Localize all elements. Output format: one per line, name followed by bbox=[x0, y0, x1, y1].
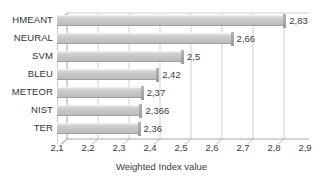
bar-chart: HMEANT NEURAL SVM BLEU METEOR NIST TER 2… bbox=[0, 0, 323, 183]
x-tick-label: 2,6 bbox=[205, 142, 218, 153]
category-label: NEURAL bbox=[0, 29, 55, 47]
bar-end-cap bbox=[181, 50, 184, 64]
bar bbox=[57, 105, 139, 116]
x-tick-label: 2,9 bbox=[298, 142, 311, 153]
bar-series: 2,832,662,52,422,372,3662,36 bbox=[57, 12, 323, 138]
bar-end-cap bbox=[141, 86, 144, 100]
x-axis-tick-labels: 2,12,22,32,42,52,62,72,82,9 bbox=[57, 142, 309, 156]
bar-row: 2,36 bbox=[57, 123, 162, 141]
x-tick-label: 2,7 bbox=[236, 142, 249, 153]
category-label: METEOR bbox=[0, 83, 55, 101]
category-label: BLEU bbox=[0, 65, 55, 83]
bar bbox=[57, 51, 181, 62]
category-label: TER bbox=[0, 119, 55, 137]
x-tick-label: 2,1 bbox=[50, 142, 63, 153]
bar bbox=[57, 15, 283, 26]
x-tick-label: 2,4 bbox=[143, 142, 156, 153]
x-tick-label: 2,2 bbox=[81, 142, 94, 153]
bar-row: 2,5 bbox=[57, 51, 200, 69]
x-tick-label: 2,3 bbox=[112, 142, 125, 153]
bar-row: 2,366 bbox=[57, 105, 169, 123]
bar-value-label: 2,5 bbox=[187, 51, 200, 62]
bar bbox=[57, 33, 231, 44]
category-label: NIST bbox=[0, 101, 55, 119]
bar-row: 2,83 bbox=[57, 15, 308, 33]
bar-end-cap bbox=[138, 122, 141, 136]
bar-end-cap bbox=[283, 14, 286, 28]
bar-value-label: 2,37 bbox=[147, 87, 166, 98]
bar bbox=[57, 69, 156, 80]
bar-end-cap bbox=[231, 32, 234, 46]
x-axis-title: Weighted Index value bbox=[0, 161, 323, 172]
bar-value-label: 2,36 bbox=[144, 123, 163, 134]
bar-end-cap bbox=[156, 68, 159, 82]
bar bbox=[57, 123, 138, 134]
bar-value-label: 2,66 bbox=[237, 33, 256, 44]
category-axis-labels: HMEANT NEURAL SVM BLEU METEOR NIST TER bbox=[0, 11, 55, 137]
bar-value-label: 2,42 bbox=[162, 69, 181, 80]
category-label: SVM bbox=[0, 47, 55, 65]
bar-row: 2,42 bbox=[57, 69, 181, 87]
category-label: HMEANT bbox=[0, 11, 55, 29]
x-tick-label: 2,5 bbox=[174, 142, 187, 153]
bar-end-cap bbox=[139, 104, 142, 118]
x-tick-label: 2,8 bbox=[267, 142, 280, 153]
bar-value-label: 2,83 bbox=[289, 15, 308, 26]
bar-row: 2,37 bbox=[57, 87, 165, 105]
bar-value-label: 2,366 bbox=[145, 105, 169, 116]
bar-row: 2,66 bbox=[57, 33, 255, 51]
bar bbox=[57, 87, 141, 98]
